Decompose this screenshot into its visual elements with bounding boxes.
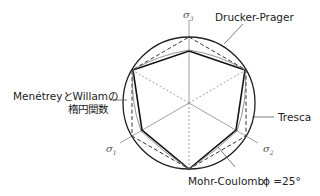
drucker-prager-label: Drucker-Prager bbox=[215, 11, 294, 23]
friction-angle-label: ϕ =25° bbox=[263, 175, 301, 187]
mohr-coulomb-label: Mohr-Coulomb bbox=[188, 175, 264, 187]
sigma3-label: σ3 bbox=[183, 9, 194, 22]
sigma2-label: σ2 bbox=[263, 143, 274, 156]
sigma2-axis bbox=[189, 103, 258, 143]
menetrey-willam-label-line2: 楕円関数 bbox=[68, 103, 108, 115]
sigma1-label: σ1 bbox=[106, 143, 117, 156]
tresca-label: Tresca bbox=[278, 111, 311, 123]
sigma1-axis bbox=[120, 103, 189, 143]
menetrey-willam-label-line1: MenétreyとWillamの bbox=[13, 90, 118, 102]
